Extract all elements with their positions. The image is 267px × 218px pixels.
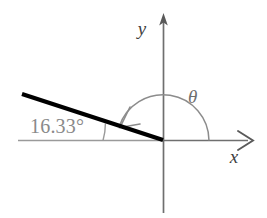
elevation-angle-value: 16.33° [30,115,84,137]
geometry-figure: y x θ 16.33° [0,0,267,218]
diagram-canvas: y x θ 16.33° [0,0,267,218]
theta-angle-label: θ [188,86,197,107]
x-axis-label: x [229,146,239,167]
y-axis-label: y [136,18,147,39]
elevation-angle-arc [103,124,105,141]
